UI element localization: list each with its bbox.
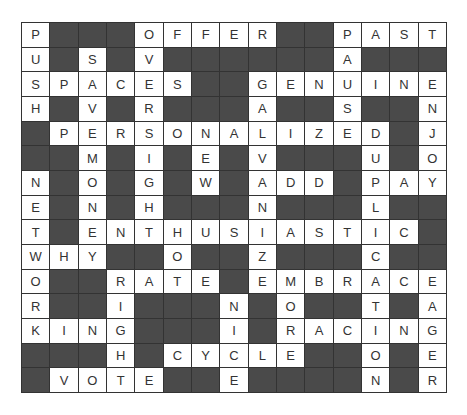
letter-cell[interactable]: I	[107, 294, 134, 318]
letter-cell[interactable]: R	[135, 97, 162, 121]
letter-cell[interactable]: O	[164, 122, 191, 146]
letter-cell[interactable]: A	[249, 97, 276, 121]
letter-cell[interactable]: N	[107, 220, 134, 244]
letter-cell[interactable]: A	[277, 220, 304, 244]
letter-cell[interactable]: O	[277, 294, 304, 318]
letter-cell[interactable]: T	[419, 23, 446, 47]
letter-cell[interactable]: U	[22, 48, 49, 72]
letter-cell[interactable]: W	[22, 245, 49, 269]
letter-cell[interactable]: P	[334, 23, 361, 47]
letter-cell[interactable]: F	[192, 23, 219, 47]
letter-cell[interactable]: T	[362, 294, 389, 318]
letter-cell[interactable]: A	[362, 270, 389, 294]
letter-cell[interactable]: F	[164, 23, 191, 47]
letter-cell[interactable]: O	[79, 368, 106, 392]
letter-cell[interactable]: G	[249, 72, 276, 96]
letter-cell[interactable]: Z	[305, 122, 332, 146]
letter-cell[interactable]: H	[22, 97, 49, 121]
letter-cell[interactable]: C	[362, 245, 389, 269]
letter-cell[interactable]: E	[419, 270, 446, 294]
letter-cell[interactable]: E	[277, 344, 304, 368]
letter-cell[interactable]: S	[164, 72, 191, 96]
letter-cell[interactable]: E	[135, 72, 162, 96]
letter-cell[interactable]: N	[390, 319, 417, 343]
letter-cell[interactable]: R	[107, 270, 134, 294]
letter-cell[interactable]: E	[277, 72, 304, 96]
letter-cell[interactable]: N	[22, 171, 49, 195]
letter-cell[interactable]: R	[249, 23, 276, 47]
letter-cell[interactable]: R	[22, 294, 49, 318]
letter-cell[interactable]: G	[107, 319, 134, 343]
letter-cell[interactable]: A	[135, 270, 162, 294]
letter-cell[interactable]: N	[220, 294, 247, 318]
letter-cell[interactable]: N	[390, 72, 417, 96]
letter-cell[interactable]: T	[107, 368, 134, 392]
letter-cell[interactable]: J	[419, 122, 446, 146]
letter-cell[interactable]: E	[79, 220, 106, 244]
letter-cell[interactable]: P	[50, 72, 77, 96]
letter-cell[interactable]: R	[419, 368, 446, 392]
letter-cell[interactable]: A	[419, 294, 446, 318]
letter-cell[interactable]: S	[305, 220, 332, 244]
letter-cell[interactable]: Z	[249, 245, 276, 269]
letter-cell[interactable]: T	[22, 220, 49, 244]
letter-cell[interactable]: I	[249, 220, 276, 244]
letter-cell[interactable]: N	[249, 196, 276, 220]
letter-cell[interactable]: N	[79, 319, 106, 343]
letter-cell[interactable]: L	[249, 344, 276, 368]
letter-cell[interactable]: E	[79, 122, 106, 146]
letter-cell[interactable]: T	[334, 220, 361, 244]
letter-cell[interactable]: H	[107, 344, 134, 368]
letter-cell[interactable]: V	[50, 368, 77, 392]
letter-cell[interactable]: I	[362, 220, 389, 244]
letter-cell[interactable]: S	[79, 48, 106, 72]
letter-cell[interactable]: E	[220, 368, 247, 392]
letter-cell[interactable]: I	[277, 122, 304, 146]
letter-cell[interactable]: H	[50, 245, 77, 269]
letter-cell[interactable]: S	[220, 220, 247, 244]
letter-cell[interactable]: A	[305, 319, 332, 343]
letter-cell[interactable]: N	[362, 368, 389, 392]
letter-cell[interactable]: V	[249, 146, 276, 170]
letter-cell[interactable]: E	[334, 122, 361, 146]
letter-cell[interactable]: C	[390, 270, 417, 294]
letter-cell[interactable]: Y	[192, 344, 219, 368]
letter-cell[interactable]: P	[362, 171, 389, 195]
letter-cell[interactable]: O	[419, 146, 446, 170]
letter-cell[interactable]: H	[135, 196, 162, 220]
letter-cell[interactable]: E	[135, 368, 162, 392]
letter-cell[interactable]: T	[164, 270, 191, 294]
letter-cell[interactable]: E	[192, 270, 219, 294]
letter-cell[interactable]: Y	[419, 171, 446, 195]
letter-cell[interactable]: A	[249, 171, 276, 195]
letter-cell[interactable]: G	[419, 319, 446, 343]
letter-cell[interactable]: M	[277, 270, 304, 294]
letter-cell[interactable]: M	[79, 146, 106, 170]
letter-cell[interactable]: I	[135, 146, 162, 170]
letter-cell[interactable]: U	[362, 146, 389, 170]
letter-cell[interactable]: A	[79, 72, 106, 96]
letter-cell[interactable]: L	[362, 196, 389, 220]
letter-cell[interactable]: A	[220, 122, 247, 146]
letter-cell[interactable]: D	[277, 171, 304, 195]
letter-cell[interactable]: D	[362, 122, 389, 146]
letter-cell[interactable]: R	[277, 319, 304, 343]
letter-cell[interactable]: S	[334, 97, 361, 121]
letter-cell[interactable]: U	[192, 220, 219, 244]
letter-cell[interactable]: O	[164, 245, 191, 269]
letter-cell[interactable]: N	[192, 122, 219, 146]
letter-cell[interactable]: E	[419, 72, 446, 96]
letter-cell[interactable]: E	[220, 23, 247, 47]
letter-cell[interactable]: S	[390, 23, 417, 47]
letter-cell[interactable]: I	[362, 319, 389, 343]
letter-cell[interactable]: O	[135, 23, 162, 47]
letter-cell[interactable]: S	[135, 122, 162, 146]
letter-cell[interactable]: O	[79, 171, 106, 195]
letter-cell[interactable]: O	[362, 344, 389, 368]
letter-cell[interactable]: B	[305, 270, 332, 294]
letter-cell[interactable]: E	[22, 196, 49, 220]
letter-cell[interactable]: C	[220, 344, 247, 368]
letter-cell[interactable]: I	[50, 319, 77, 343]
letter-cell[interactable]: E	[419, 344, 446, 368]
letter-cell[interactable]: N	[419, 97, 446, 121]
